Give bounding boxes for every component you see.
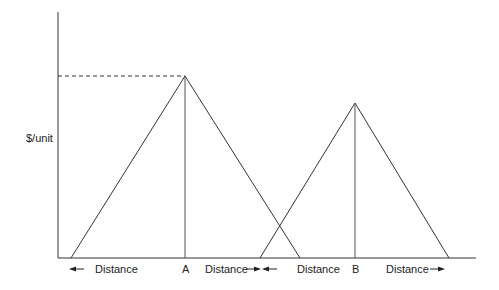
y-axis-label: $/unit <box>26 132 53 144</box>
arrow-left-a <box>69 267 84 272</box>
arrow-right-a <box>246 267 261 272</box>
arrow-left-b <box>262 267 277 272</box>
point-a-label: A <box>182 263 189 275</box>
distance-label-b-left: Distance <box>297 263 340 275</box>
triangle-b <box>260 103 449 258</box>
diagram-canvas <box>0 0 499 290</box>
distance-label-a-right: Distance <box>205 263 248 275</box>
distance-label-b-right: Distance <box>386 263 429 275</box>
arrow-right-b <box>430 267 445 272</box>
point-b-label: B <box>352 263 359 275</box>
triangle-a <box>71 76 300 258</box>
distance-label-a-left: Distance <box>95 263 138 275</box>
